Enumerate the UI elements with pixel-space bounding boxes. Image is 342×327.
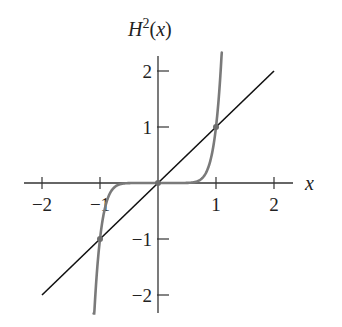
y-tick-label: 2: [143, 61, 153, 82]
x-tick-label: 2: [269, 194, 279, 215]
y-axis-title: H2(x): [127, 16, 172, 41]
y-tick-label: 1: [143, 117, 153, 138]
fixed-point-marker: [213, 124, 219, 130]
chart: −2−11221−1−2 H2(x) x: [0, 0, 342, 327]
y-tick-label: −1: [132, 229, 152, 250]
fixed-point-marker: [97, 236, 103, 242]
fixed-point-marker: [155, 180, 161, 186]
x-tick-label: 1: [211, 194, 221, 215]
y-tick-label: −2: [132, 285, 152, 306]
x-axis-label: x: [304, 172, 314, 194]
x-tick-label: −2: [32, 194, 52, 215]
